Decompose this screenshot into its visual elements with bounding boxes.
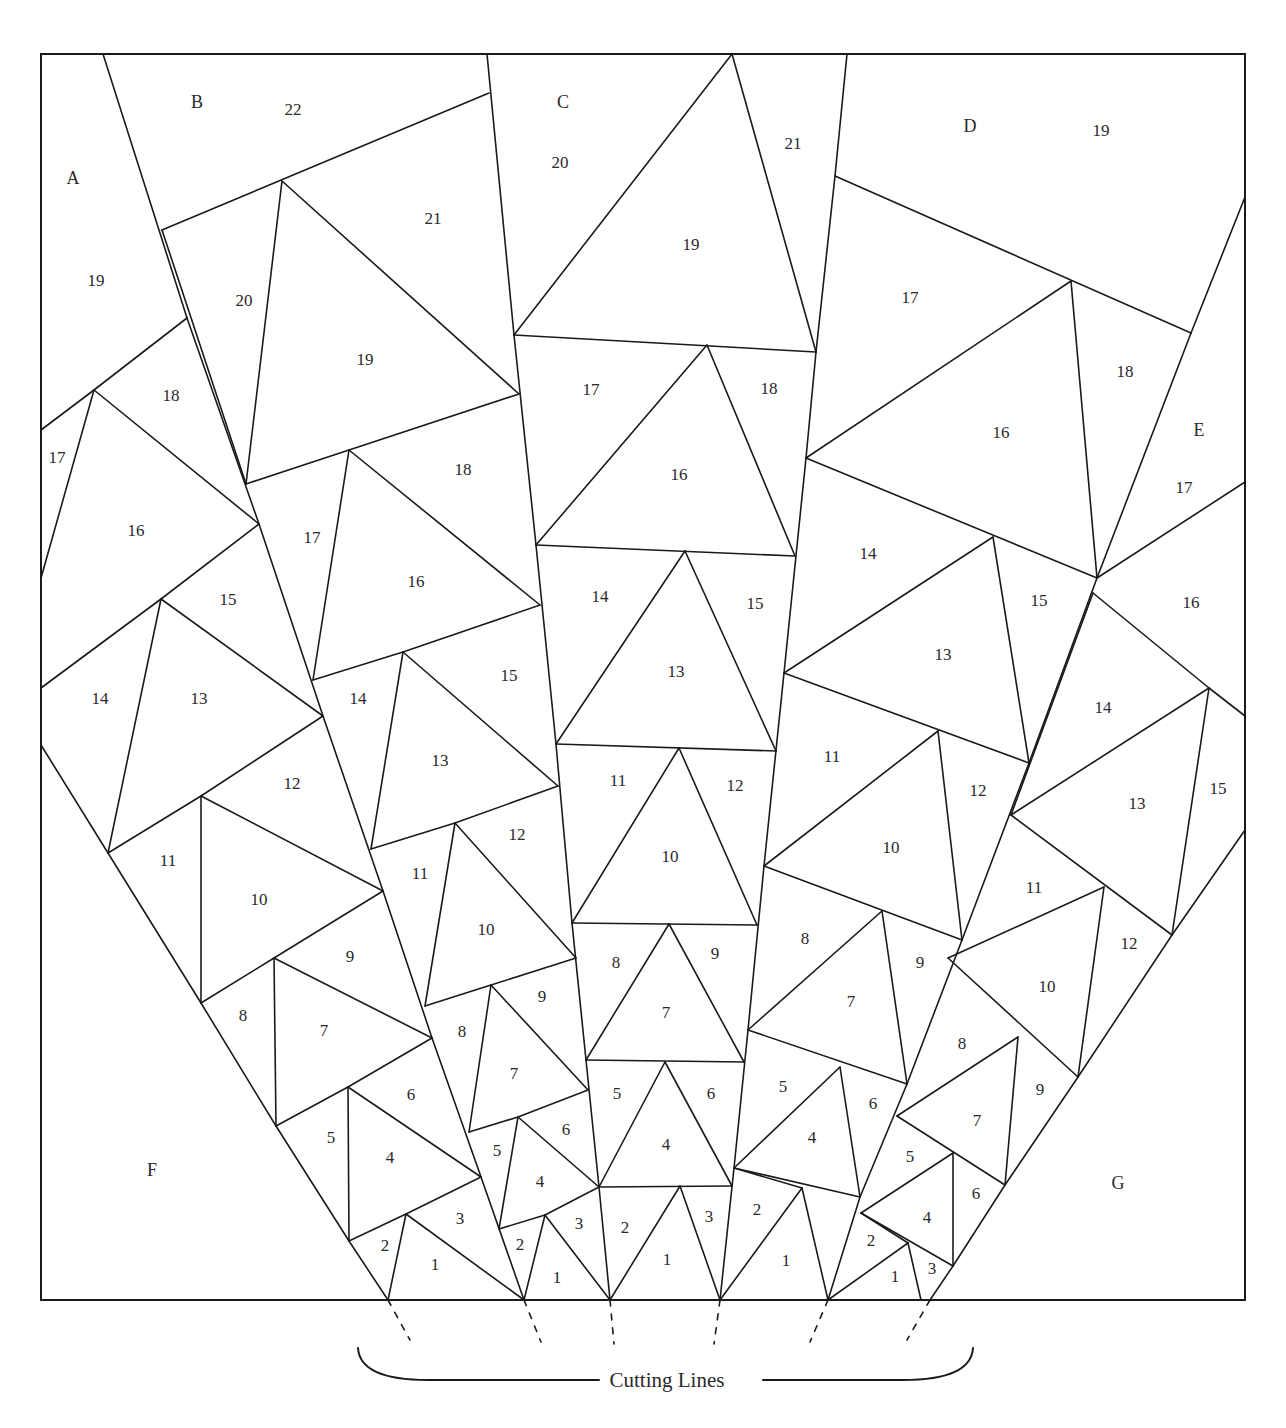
piece-number: 13: [935, 645, 952, 664]
seam-line: [349, 1214, 406, 1241]
cutting-line-dashes: [388, 1300, 930, 1344]
piece-number: 3: [575, 1214, 584, 1233]
piece-number: 19: [88, 271, 105, 290]
seam-line: [732, 54, 816, 352]
block-border: [41, 54, 1245, 1300]
seam-line: [536, 345, 707, 545]
piece-number: 21: [425, 209, 442, 228]
seam-line: [556, 744, 776, 751]
cutting-lines-brace-right: [763, 1348, 973, 1380]
piece-number: 13: [191, 689, 208, 708]
seam-line: [455, 786, 558, 823]
quilt-pattern-diagram: Cutting Lines ABCDEFG 191817161514131211…: [0, 0, 1286, 1428]
cutting-line: [714, 1300, 720, 1344]
seam-line: [425, 823, 455, 1006]
section-letter-c: C: [557, 92, 569, 112]
piece-number: 9: [346, 947, 355, 966]
seam-line: [748, 1030, 907, 1084]
piece-number: 5: [327, 1128, 336, 1147]
seam-line: [707, 345, 795, 556]
section-letter-b: B: [191, 92, 203, 112]
seam-line: [491, 958, 576, 985]
seam-line: [1005, 1037, 1018, 1185]
piece-number: 5: [906, 1147, 915, 1166]
piece-number: 17: [583, 380, 601, 399]
seam-line: [1011, 815, 1172, 935]
piece-number: 5: [779, 1077, 788, 1096]
piece-number: 3: [928, 1259, 937, 1278]
seam-line: [784, 673, 1029, 763]
piece-number: 9: [538, 987, 547, 1006]
seam-line: [536, 545, 556, 744]
seam-line: [1097, 333, 1191, 578]
piece-number: 18: [455, 460, 472, 479]
seam-line: [274, 958, 432, 1038]
seam-line: [665, 1062, 732, 1186]
seam-line: [806, 281, 1071, 458]
piece-number: 7: [847, 992, 856, 1011]
piece-number: 19: [1093, 121, 1110, 140]
piece-number: 5: [613, 1084, 622, 1103]
seam-line: [274, 891, 383, 958]
piece-number: 21: [785, 134, 802, 153]
piece-number: 2: [621, 1218, 630, 1237]
seam-line: [748, 911, 882, 1030]
piece-number: 3: [705, 1207, 714, 1226]
seam-line: [1172, 688, 1209, 935]
seam-line: [514, 335, 816, 352]
piece-number: 11: [610, 771, 626, 790]
piece-number: 4: [536, 1172, 545, 1191]
seam-line: [41, 745, 108, 853]
seam-line: [514, 335, 536, 545]
section-letter-a: A: [67, 168, 80, 188]
seam-line: [425, 985, 491, 1006]
seam-line: [806, 458, 1097, 578]
seam-line: [94, 390, 259, 524]
seam-line: [1011, 593, 1093, 815]
piece-number: 16: [993, 423, 1010, 442]
piece-number: 13: [432, 751, 449, 770]
seam-line: [556, 551, 685, 744]
section-letter-g: G: [1112, 1173, 1125, 1193]
piece-number: 9: [916, 953, 925, 972]
seam-line: [938, 731, 962, 940]
piece-number: 6: [407, 1085, 416, 1104]
piece-number: 7: [973, 1111, 982, 1130]
piece-number: 14: [1095, 698, 1113, 717]
seam-line: [371, 652, 403, 849]
seam-line: [948, 887, 1104, 958]
piece-number: 15: [1031, 591, 1048, 610]
piece-number: 6: [562, 1120, 571, 1139]
piece-number: 2: [516, 1235, 525, 1254]
seam-line: [276, 1087, 348, 1126]
seam-line: [348, 1087, 349, 1241]
piece-number: 7: [320, 1021, 329, 1040]
piece-number: 15: [1210, 779, 1227, 798]
piece-number: 14: [350, 689, 368, 708]
seam-line: [680, 1186, 720, 1300]
piece-number: 10: [883, 838, 900, 857]
seam-line: [388, 1214, 406, 1300]
seam-line: [524, 1215, 545, 1300]
piece-number: 4: [386, 1148, 395, 1167]
seam-line: [487, 54, 514, 335]
piece-number: 6: [869, 1094, 878, 1113]
seam-line: [993, 537, 1029, 763]
seam-line: [274, 958, 276, 1126]
piece-number: 11: [824, 747, 840, 766]
seam-line: [349, 394, 519, 450]
seam-line: [383, 891, 432, 1038]
piece-number: 10: [251, 890, 268, 909]
seam-line: [187, 318, 259, 524]
piece-number: 6: [707, 1084, 716, 1103]
seam-line: [41, 390, 94, 578]
seam-line: [313, 652, 403, 680]
seam-line: [784, 458, 806, 673]
seam-line: [545, 1187, 599, 1215]
seam-line: [1071, 281, 1097, 578]
seam-line: [734, 1168, 860, 1197]
piece-number: 9: [1036, 1080, 1045, 1099]
piece-numbers: 1918171615141312111098765432122212019181…: [49, 100, 1227, 1287]
cutting-line: [524, 1300, 541, 1342]
piece-number: 12: [970, 781, 987, 800]
